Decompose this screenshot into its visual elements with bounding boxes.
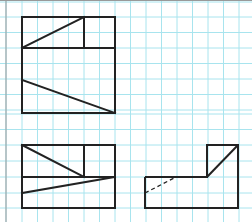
- hidden-line: [145, 177, 176, 193]
- orthographic-drawing: [0, 0, 252, 222]
- grid: [0, 0, 252, 222]
- drawing-svg: [0, 0, 252, 222]
